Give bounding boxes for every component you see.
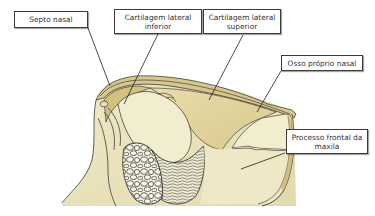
label-cartilagem-lateral-inferior: Cartilagem lateral inferior xyxy=(114,9,202,34)
label-processo-frontal-maxila: Processo frontal da maxila xyxy=(286,129,368,154)
nasal-anatomy-diagram: Septo nasal Cartilagem lateral inferior … xyxy=(0,0,375,216)
maxilla-frontal-process-shape xyxy=(200,146,290,204)
label-osso-proprio-nasal: Osso próprio nasal xyxy=(281,55,363,71)
label-cartilagem-lateral-superior: Cartilagem lateral superior xyxy=(203,9,281,34)
label-septo-nasal: Septo nasal xyxy=(14,11,88,28)
